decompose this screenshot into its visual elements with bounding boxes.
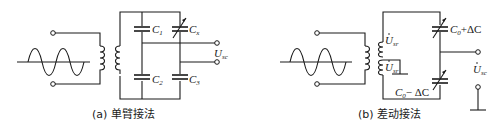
label-usr-top: Usr [385, 34, 399, 48]
circuit-diagrams: C1 Cx C2 C3 Usc (a) 单臂接法 [0, 0, 497, 132]
ac-source-sine-icon [280, 49, 352, 76]
label-c0-minus: C0− ΔC [395, 86, 429, 100]
label-c3: C3 [189, 73, 200, 87]
label-c1: C1 [152, 23, 163, 37]
ac-source-sine-icon [17, 49, 90, 76]
primary-coil-icon [365, 46, 370, 74]
primary-coil-icon [100, 46, 105, 74]
output-terminal-bottom [215, 60, 220, 65]
capacitor-c1-icon [134, 27, 150, 31]
capacitor-c2-icon [134, 75, 150, 79]
figure-b-differential: C0+ΔC C0− ΔC Usr Usr Usc (b) 差动接法 [280, 12, 488, 121]
output-terminal-bottom [476, 85, 481, 90]
input-terminal-top [315, 31, 320, 36]
input-terminal-top [51, 31, 56, 36]
figure-a-single-arm: C1 Cx C2 C3 Usc (a) 单臂接法 [17, 12, 229, 121]
label-output-usc: Usc [473, 63, 488, 77]
label-output-usc: Usc [214, 47, 229, 61]
label-usr-bottom: Usr [385, 61, 399, 75]
label-cx: Cx [189, 23, 200, 37]
caption-b: (b) 差动接法 [358, 107, 421, 121]
secondary-coil-icon [116, 46, 121, 74]
label-c0-plus: C0+ΔC [450, 23, 481, 37]
input-terminal-bottom [51, 82, 56, 87]
output-terminal-top [215, 41, 220, 46]
label-c2: C2 [152, 73, 163, 87]
input-terminal-bottom [315, 82, 320, 87]
secondary-coil-icon [379, 42, 384, 75]
output-terminal-top [476, 50, 481, 55]
caption-a: (a) 单臂接法 [92, 107, 155, 121]
capacitor-c3-icon [172, 75, 188, 79]
